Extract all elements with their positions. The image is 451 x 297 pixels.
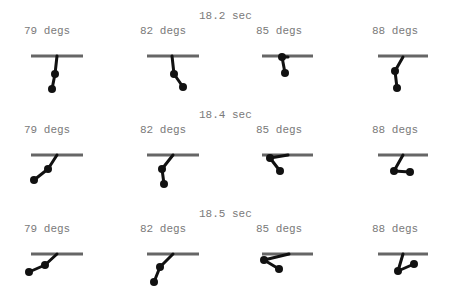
joint-mass (391, 67, 399, 75)
bob-mass (406, 168, 414, 176)
angle-label: 79 degs (24, 25, 70, 37)
joint-mass (278, 53, 286, 61)
joint-mass (51, 70, 59, 78)
angle-label: 88 degs (372, 124, 418, 136)
pendulum (31, 56, 83, 93)
angle-label: 85 degs (256, 25, 302, 37)
pendulum (378, 155, 428, 176)
pendulum-canvas (0, 0, 451, 297)
bob-mass (48, 85, 56, 93)
bob-mass (281, 69, 289, 77)
bob-mass (393, 84, 401, 92)
bob-mass (179, 83, 187, 91)
joint-mass (266, 154, 274, 162)
joint-mass (260, 256, 268, 264)
joint-mass (394, 267, 402, 275)
pendulum (30, 155, 83, 184)
bob-mass (275, 265, 283, 273)
angle-label: 88 degs (372, 223, 418, 235)
pendulum (147, 155, 199, 188)
joint-mass (44, 165, 52, 173)
angle-label: 79 degs (24, 124, 70, 136)
pendulum (378, 56, 428, 92)
time-label: 18.5 sec (199, 208, 252, 220)
angle-label: 79 degs (24, 223, 70, 235)
joint-mass (41, 261, 49, 269)
angle-label: 82 degs (140, 223, 186, 235)
joint-mass (170, 70, 178, 78)
joint-mass (390, 167, 398, 175)
bob-mass (150, 278, 158, 286)
bob-mass (25, 268, 33, 276)
time-label: 18.2 sec (199, 10, 252, 22)
joint-mass (156, 263, 164, 271)
pendulum (260, 254, 313, 273)
angle-label: 88 degs (372, 25, 418, 37)
angle-label: 82 degs (140, 25, 186, 37)
pendulum (25, 254, 83, 276)
pendulum (147, 56, 199, 91)
bob-mass (160, 180, 168, 188)
pendulum (262, 53, 313, 77)
time-label: 18.4 sec (199, 109, 252, 121)
bob-mass (30, 176, 38, 184)
angle-label: 85 degs (256, 124, 302, 136)
angle-label: 82 degs (140, 124, 186, 136)
bob-mass (410, 260, 418, 268)
angle-label: 85 degs (256, 223, 302, 235)
pendulum (378, 254, 428, 275)
pendulum (147, 254, 199, 286)
joint-mass (158, 165, 166, 173)
pendulum (262, 154, 313, 175)
bob-mass (276, 167, 284, 175)
